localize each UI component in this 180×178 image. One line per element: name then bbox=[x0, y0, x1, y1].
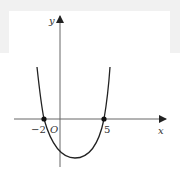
parabola-curve bbox=[37, 67, 110, 158]
y-axis-label: y bbox=[48, 15, 55, 26]
root-point-neg2 bbox=[41, 116, 46, 121]
parabola-diagram: y x O −2 5 bbox=[0, 0, 180, 178]
root-point-5 bbox=[101, 116, 106, 121]
root-label-5: 5 bbox=[104, 124, 110, 135]
x-axis-label: x bbox=[158, 125, 164, 136]
root-label-neg2: −2 bbox=[31, 124, 46, 135]
origin-label: O bbox=[50, 124, 58, 135]
